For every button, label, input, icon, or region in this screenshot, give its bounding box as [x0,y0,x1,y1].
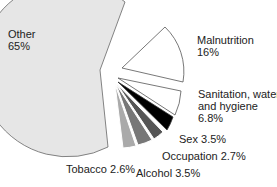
label-malnutrition-value: 16% [197,46,254,58]
label-other-name: Other [8,28,36,40]
label-other: Other 65% [8,28,36,52]
pie-chart: Other 65% Malnutrition 16% Sanitation, w… [0,0,277,187]
label-sanitation-line1: Sanitation, water [198,88,277,100]
label-sanitation-value: 6.8% [198,112,277,124]
label-sanitation: Sanitation, water and hygiene 6.8% [198,88,277,124]
label-malnutrition: Malnutrition 16% [197,34,254,58]
label-malnutrition-name: Malnutrition [197,34,254,46]
label-sex: Sex 3.5% [179,133,226,145]
label-occupation: Occupation 2.7% [162,150,246,162]
label-sanitation-line2: and hygiene [198,100,277,112]
slice-malnutrition [122,27,184,82]
label-other-value: 65% [8,40,36,52]
label-tobacco: Tobacco 2.6% [66,163,135,175]
label-alcohol: Alcohol 3.5% [136,167,200,179]
slice-other [0,0,125,157]
